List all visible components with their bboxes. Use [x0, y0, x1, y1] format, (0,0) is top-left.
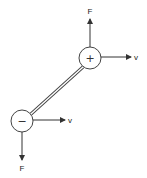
rod — [31, 67, 83, 114]
velocity-label-top: v — [134, 53, 138, 62]
velocity-label-bottom: v — [68, 116, 72, 125]
velocity-arrow-bottom: v — [33, 116, 72, 125]
dipole-diagram: + − F v v F — [0, 0, 147, 178]
force-arrow-top: F — [88, 7, 93, 47]
force-arrow-bottom: F — [20, 132, 25, 173]
positive-charge: + — [79, 47, 101, 69]
force-label-top: F — [88, 7, 93, 16]
velocity-arrow-top: v — [101, 53, 138, 62]
force-label-bottom: F — [20, 164, 25, 173]
negative-charge: − — [11, 110, 33, 132]
plus-sign: + — [85, 52, 94, 65]
minus-sign: − — [17, 115, 26, 128]
